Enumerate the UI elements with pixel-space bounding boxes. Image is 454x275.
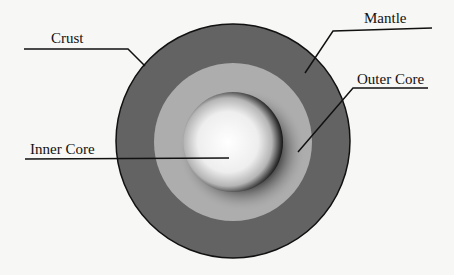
inner-core-leader-line xyxy=(25,158,229,159)
inner-core-layer xyxy=(183,92,283,192)
earth-layers-diagram: Crust Mantle Outer Core Inner Core xyxy=(0,0,454,275)
outer-core-label: Outer Core xyxy=(357,71,424,87)
crust-leader-line xyxy=(24,49,145,66)
mantle-leader-line xyxy=(305,28,432,73)
crust-label: Crust xyxy=(51,30,84,46)
inner-core-label: Inner Core xyxy=(30,141,95,157)
mantle-label: Mantle xyxy=(364,10,407,26)
